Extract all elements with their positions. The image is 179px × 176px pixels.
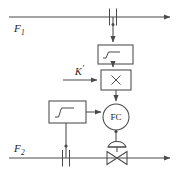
controller-label-fc: FC [110, 112, 121, 122]
control-valve[interactable] [107, 142, 127, 165]
stream-label-f2-subscript: 2 [21, 148, 25, 157]
multiply-icon [112, 76, 121, 85]
stream-label-f2: F [13, 142, 21, 154]
setpoint-label-prime: ′ [82, 63, 85, 73]
tap-junction-dot-f2 [64, 144, 67, 147]
stream-label-f1: F [13, 22, 21, 34]
controller-output-dot [114, 130, 117, 133]
square-root-icon-top [103, 52, 120, 58]
ratio-control-diagram: F 1 F 2 K ′ FC [0, 0, 179, 176]
tap-junction-dot-f1 [112, 23, 115, 26]
pid-diagram-canvas: F 1 F 2 K ′ FC [0, 0, 179, 176]
square-root-block-top[interactable] [98, 45, 133, 64]
stream-label-f1-subscript: 1 [21, 28, 25, 37]
square-root-block-bottom[interactable] [49, 101, 86, 123]
square-root-icon-bottom [55, 108, 74, 117]
